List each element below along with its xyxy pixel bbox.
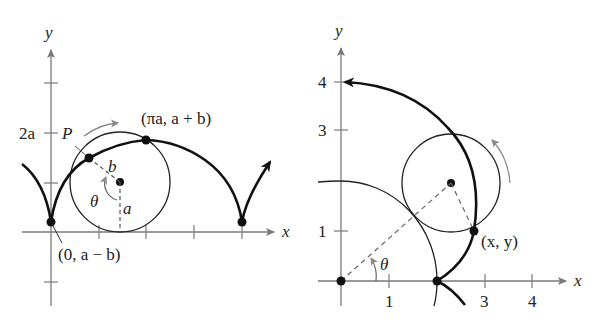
- point-origin: [337, 277, 346, 286]
- label-theta-left: θ: [90, 192, 98, 211]
- label-P: P: [61, 124, 72, 143]
- x-tick-4: 4: [528, 292, 537, 311]
- x-tick-3: 3: [480, 292, 489, 311]
- label-a: a: [123, 199, 132, 218]
- figures-canvas: y x 2a P b a θ (πa, a + b) (0, a − b): [0, 0, 599, 328]
- left-figure: y x 2a P b a θ (πa, a + b) (0, a − b): [19, 23, 290, 306]
- label-top-point: (πa, a + b): [141, 109, 211, 128]
- right-x-label: x: [573, 271, 582, 290]
- dashed-origin-to-center: [341, 183, 451, 281]
- y-tick-4: 4: [318, 73, 327, 92]
- point-xy: [470, 227, 479, 236]
- point-cusp: [433, 277, 442, 286]
- theta-arc-right: [371, 258, 376, 281]
- label-b: b: [108, 157, 117, 176]
- tick-label-2a: 2a: [19, 124, 36, 143]
- right-figure: y x 1 3 4 1 3 4 θ (x, y): [318, 21, 582, 311]
- right-y-label: y: [333, 21, 343, 40]
- point-start: [47, 218, 56, 227]
- y-tick-1: 1: [318, 222, 327, 241]
- y-tick-3: 3: [318, 121, 327, 140]
- dashed-center-to-point: [451, 183, 474, 231]
- x-tick-1: 1: [385, 292, 394, 311]
- theta-arc-left: [105, 177, 117, 200]
- left-y-label: y: [43, 23, 53, 42]
- point-end: [238, 218, 247, 227]
- trochoid-curve: [22, 140, 270, 222]
- label-theta-right: θ: [380, 255, 388, 274]
- fixed-circle: [318, 181, 437, 306]
- leader-start: [53, 226, 62, 243]
- label-start-point: (0, a − b): [58, 245, 120, 264]
- point-P: [85, 154, 94, 163]
- label-point-xy: (x, y): [481, 232, 518, 251]
- point-top: [142, 136, 151, 145]
- rotation-arrow-left: [84, 123, 118, 136]
- left-x-label: x: [281, 222, 290, 241]
